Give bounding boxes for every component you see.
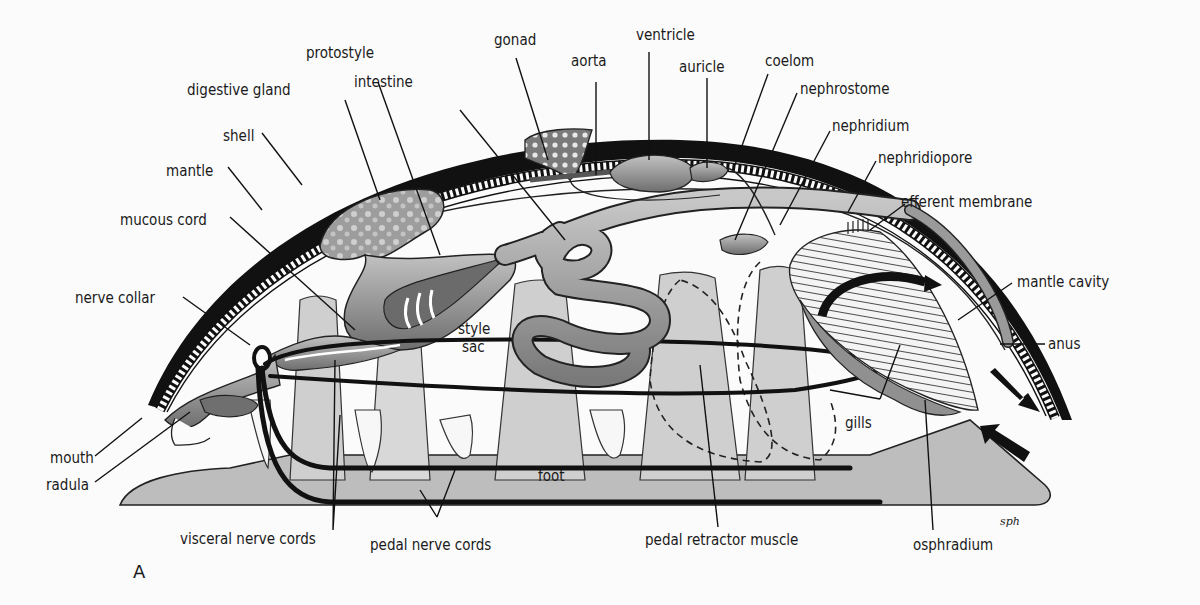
label-pedal-retractor-muscle: pedal retractor muscle [645, 531, 798, 549]
label-radula: radula [46, 476, 89, 494]
label-digestive-gland: digestive gland [187, 81, 291, 99]
label-mantle-cavity: mantle cavity [1017, 273, 1109, 291]
label-gonad: gonad [494, 31, 536, 49]
label-auricle: auricle [679, 58, 725, 76]
label-style: style [458, 320, 490, 338]
panel-letter: A [133, 561, 146, 582]
radula-sac [200, 395, 258, 416]
label-mouth: mouth [50, 449, 94, 467]
label-efferent-membrane: efferent membrane [901, 193, 1032, 211]
label-coelom: coelom [765, 52, 814, 70]
label-pedal-nerve-cords: pedal nerve cords [370, 536, 491, 554]
label-anus: anus [1048, 335, 1080, 353]
label-sac: sac [462, 338, 485, 356]
label-protostyle: protostyle [306, 44, 374, 62]
artist-signature: sph [1000, 515, 1020, 528]
label-foot: foot [538, 467, 565, 485]
label-intestine: intestine [354, 73, 413, 91]
label-mantle: mantle [166, 162, 213, 180]
anatomy-diagram: protostyle gonad ventricle aorta auricle… [0, 0, 1200, 605]
label-aorta: aorta [571, 52, 607, 70]
label-ventricle: ventricle [636, 26, 695, 44]
nephrostome [720, 234, 768, 254]
label-nephridiopore: nephridiopore [878, 149, 972, 167]
label-visceral-nerve-cords: visceral nerve cords [180, 530, 316, 548]
digestive-gland [320, 189, 444, 259]
label-nerve-collar: nerve collar [75, 289, 155, 307]
label-gills: gills [845, 414, 872, 432]
label-osphradium: osphradium [913, 536, 993, 554]
label-mucous-cord: mucous cord [120, 211, 207, 229]
label-nephridium: nephridium [832, 117, 909, 135]
label-nephrostome: nephrostome [800, 80, 889, 98]
label-shell: shell [223, 127, 254, 145]
